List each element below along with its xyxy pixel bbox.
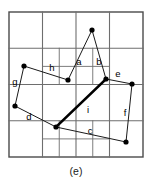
- edge-f: [126, 84, 132, 142]
- edge-label-i: i: [87, 104, 89, 115]
- vertex-v8: [21, 63, 26, 68]
- edge-label-c: c: [88, 125, 93, 136]
- vertex-v2: [65, 77, 70, 82]
- edge-label-g: g: [12, 76, 17, 87]
- vertex-layer: [12, 27, 134, 144]
- figure-caption: (e): [70, 165, 83, 177]
- edge-label-h: h: [49, 62, 54, 73]
- vertex-v5: [123, 139, 128, 144]
- figure-container: abcdefghi (e): [0, 0, 152, 182]
- vertex-v3: [103, 76, 108, 81]
- vertex-v7: [12, 103, 17, 108]
- edge-b: [92, 30, 106, 79]
- edge-label-d: d: [26, 111, 31, 122]
- grid-layer: [9, 12, 143, 157]
- edge-label-e: e: [115, 68, 120, 79]
- edge-d: [15, 106, 56, 127]
- vertex-v4: [129, 81, 134, 86]
- edge-layer: [15, 30, 132, 142]
- edge-label-f: f: [124, 107, 127, 118]
- edge-label-a: a: [76, 56, 82, 67]
- grid-polygon-figure: abcdefghi (e): [0, 0, 152, 182]
- edge-i: [56, 79, 106, 127]
- vertex-v1: [89, 27, 94, 32]
- edge-h: [24, 66, 68, 80]
- edge-label-b: b: [96, 56, 101, 67]
- vertex-v6: [53, 124, 58, 129]
